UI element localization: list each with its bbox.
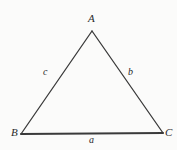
triangle-diagram: A B C a b c bbox=[0, 0, 177, 150]
side-label-a: a bbox=[89, 135, 94, 145]
vertex-label-b: B bbox=[11, 127, 18, 138]
side-label-b: b bbox=[128, 67, 133, 77]
vertex-label-c: C bbox=[165, 127, 172, 138]
vertex-label-a: A bbox=[88, 13, 95, 24]
side-label-c: c bbox=[43, 67, 47, 77]
side-b-line bbox=[92, 31, 163, 133]
side-c-line bbox=[21, 31, 92, 134]
